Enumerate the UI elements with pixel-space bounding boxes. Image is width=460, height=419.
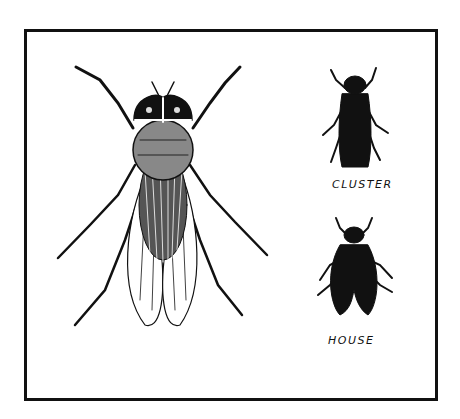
- cluster-fly-icon: [323, 68, 388, 167]
- fly-illustration: [0, 0, 460, 419]
- house-fly-label: HOUSE: [328, 334, 374, 347]
- house-fly-icon: [318, 218, 392, 315]
- cluster-fly-label: CLUSTER: [332, 178, 393, 191]
- detailed-fly-icon: [58, 67, 267, 326]
